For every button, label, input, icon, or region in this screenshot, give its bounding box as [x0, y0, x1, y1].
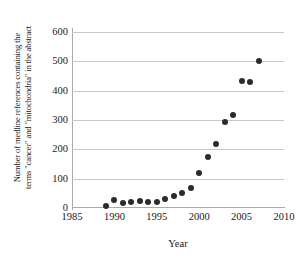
y-axis-line: [72, 28, 73, 210]
y-tick-label: 100: [52, 173, 68, 184]
plot-area: 0100200300400500600 19851990199520002005…: [72, 32, 284, 208]
data-point: [103, 203, 109, 209]
x-axis-title: Year: [72, 238, 284, 249]
y-tick-label: 500: [52, 56, 68, 67]
y-tick-label: 200: [52, 144, 68, 155]
data-point: [196, 170, 202, 176]
data-point: [188, 185, 194, 191]
x-tick-label: 1990: [104, 212, 125, 223]
data-point: [154, 199, 160, 205]
data-point: [205, 154, 211, 160]
data-point: [179, 190, 185, 196]
data-point: [145, 199, 151, 205]
gridline: [72, 91, 284, 92]
data-point: [222, 119, 228, 125]
data-point: [256, 58, 262, 64]
x-tick-label: 1985: [62, 212, 83, 223]
y-axis-title-line2: terms "cancer" and "mitochondria" in the…: [23, 26, 34, 189]
x-tick-label: 2005: [231, 212, 252, 223]
gridline: [72, 149, 284, 150]
data-point: [171, 193, 177, 199]
scatter-chart-figure: Number of medline references containing …: [0, 0, 296, 264]
data-point: [239, 78, 245, 84]
data-point: [162, 196, 168, 202]
data-point: [120, 200, 126, 206]
x-tick-label: 2000: [189, 212, 210, 223]
data-point: [128, 199, 134, 205]
data-point: [230, 112, 236, 118]
gridline: [72, 179, 284, 180]
y-tick-label: 600: [52, 27, 68, 38]
data-point: [111, 197, 117, 203]
x-tick-label: 2010: [274, 212, 295, 223]
y-axis-title-line1: Number of medline references containing …: [0, 33, 23, 182]
y-tick-label: 400: [52, 85, 68, 96]
y-tick-label: 300: [52, 115, 68, 126]
gridline: [72, 120, 284, 121]
data-point: [247, 79, 253, 85]
y-axis-title: Number of medline references containing …: [0, 0, 46, 215]
data-point: [213, 141, 219, 147]
x-tick-label: 1995: [146, 212, 167, 223]
data-point: [137, 198, 143, 204]
gridline: [72, 61, 284, 62]
gridline: [72, 32, 284, 33]
